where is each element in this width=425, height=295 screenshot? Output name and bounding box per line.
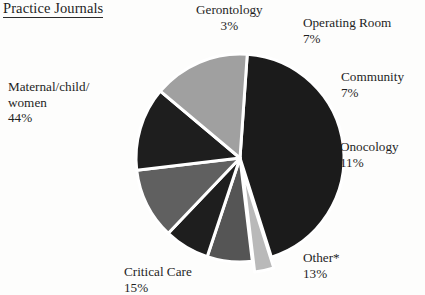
slice-label-community: Community 7%	[341, 69, 404, 100]
slice-value-gerontology: 3%	[196, 18, 263, 34]
pie-slice-group	[136, 54, 344, 272]
slice-label-onocology: Onocology 11%	[340, 139, 399, 170]
slice-label-operating-room: Operating Room 7%	[303, 15, 391, 46]
pie-chart-figure: Practice Journals Maternal/child/ women …	[0, 0, 425, 295]
slice-label-other-text: Other*	[303, 250, 340, 265]
slice-label-critical-care-text: Critical Care	[124, 264, 192, 279]
slice-label-gerontology-text: Gerontology	[196, 2, 263, 17]
slice-value-onocology: 11%	[340, 155, 399, 171]
slice-value-other: 13%	[303, 266, 340, 282]
slice-value-maternal: 44%	[8, 110, 89, 126]
slice-label-maternal-line1: Maternal/child/	[8, 79, 89, 94]
slice-label-other: Other* 13%	[303, 250, 340, 281]
slice-label-onocology-text: Onocology	[340, 139, 399, 154]
slice-label-community-text: Community	[341, 69, 404, 84]
slice-label-critical-care: Critical Care 15%	[124, 264, 192, 295]
slice-label-maternal-line2: women	[8, 95, 47, 110]
slice-label-gerontology: Gerontology 3%	[196, 2, 263, 33]
slice-label-maternal-child-women: Maternal/child/ women 44%	[8, 79, 89, 126]
slice-value-operating-room: 7%	[303, 31, 391, 47]
slice-label-operating-room-text: Operating Room	[303, 15, 391, 30]
slice-value-critical-care: 15%	[124, 280, 192, 295]
slice-value-community: 7%	[341, 85, 404, 101]
